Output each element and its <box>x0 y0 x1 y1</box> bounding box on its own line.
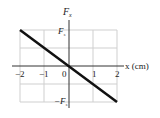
y-axis-title: Fx <box>62 6 72 18</box>
y-tick-bottom: −Fs <box>54 96 68 107</box>
x-tick-0: 0 <box>62 69 67 79</box>
x-tick-1: 1 <box>92 69 97 79</box>
force-displacement-chart: Fx Fs −Fs −2 −1 0 1 2 x (cm) <box>0 0 160 118</box>
x-tick-m1: −1 <box>39 69 49 79</box>
y-tick-top: Fs <box>57 26 66 37</box>
x-tick-2: 2 <box>115 69 120 79</box>
x-axis-title: x (cm) <box>125 61 149 71</box>
x-tick-m2: −2 <box>15 69 25 79</box>
